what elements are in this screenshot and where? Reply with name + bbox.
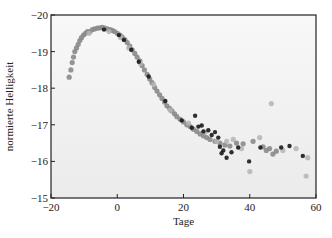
data-point-gray	[70, 60, 75, 65]
data-point-light	[231, 137, 236, 142]
y-tick-label: −20	[31, 9, 49, 21]
data-point-dark	[147, 74, 151, 78]
data-point-light	[186, 120, 191, 125]
data-point-dark	[190, 126, 194, 130]
data-point-gray	[207, 137, 212, 142]
x-tick-label: 60	[311, 201, 323, 213]
x-tick-label: 20	[178, 201, 190, 213]
data-point-dark	[287, 144, 291, 148]
data-point-dark	[122, 38, 126, 42]
data-point-dark	[247, 159, 251, 163]
data-point-light	[257, 135, 262, 140]
data-point-dark	[117, 33, 121, 37]
data-point-dark	[193, 114, 197, 118]
data-point-light	[247, 169, 252, 174]
y-tick-label: −17	[31, 119, 49, 131]
data-point-dark	[137, 60, 141, 64]
data-point-dark	[102, 27, 106, 31]
y-tick-label: −18	[31, 82, 49, 94]
data-point-dark	[213, 130, 217, 134]
data-point-dark	[279, 145, 283, 149]
data-point-dark	[201, 129, 205, 133]
data-point-dark	[229, 150, 233, 154]
data-point-light	[151, 82, 156, 87]
data-point-dark	[216, 135, 220, 139]
data-point-dark	[301, 154, 305, 158]
data-point-light	[106, 29, 111, 34]
y-tick-label: −15	[31, 192, 49, 204]
data-point-light	[224, 139, 229, 144]
data-point-light	[294, 146, 299, 151]
data-point-gray	[142, 67, 147, 72]
x-axis-label: Tage	[173, 215, 194, 227]
y-axis-label: normierte Helligkeit	[3, 62, 15, 152]
data-point-dark	[218, 145, 222, 149]
data-point-dark	[196, 124, 200, 128]
data-point-light	[305, 155, 310, 160]
data-point-light	[87, 31, 92, 36]
data-point-gray	[67, 75, 72, 80]
data-point-gray	[68, 67, 73, 72]
data-point-gray	[274, 149, 279, 154]
data-point-gray	[251, 139, 256, 144]
y-tick-label: −19	[31, 46, 49, 58]
data-point-gray	[267, 146, 272, 151]
plot-background	[51, 15, 316, 198]
data-point-dark	[224, 156, 228, 160]
data-point-dark	[206, 128, 210, 132]
data-point-gray	[71, 55, 76, 60]
x-tick-label: 40	[244, 201, 256, 213]
data-point-gray	[227, 143, 232, 148]
data-point-light	[269, 101, 274, 106]
chart: −200204060 −20−19−18−17−16−15 Tage normi…	[0, 0, 332, 238]
data-point-dark	[210, 133, 214, 137]
x-tick-label: 0	[115, 201, 121, 213]
data-point-dark	[163, 99, 167, 103]
data-point-dark	[129, 48, 133, 52]
data-point-gray	[241, 141, 246, 146]
data-point-light	[304, 173, 309, 178]
y-tick-label: −16	[31, 155, 49, 167]
data-point-dark	[221, 148, 225, 152]
data-point-dark	[258, 145, 262, 149]
data-point-light	[168, 108, 173, 113]
data-point-dark	[236, 145, 240, 149]
data-point-dark	[180, 118, 184, 122]
